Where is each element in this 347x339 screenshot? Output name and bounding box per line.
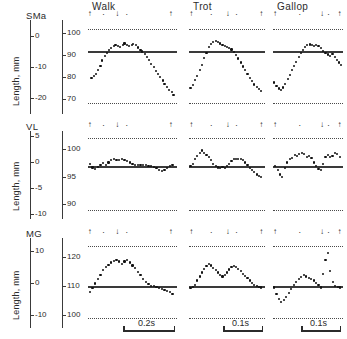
data-point (275, 293, 277, 295)
data-point (273, 286, 275, 288)
data-point (298, 278, 300, 280)
data-point (280, 301, 282, 303)
data-point (310, 278, 312, 280)
data-point (290, 288, 292, 290)
data-point (324, 259, 326, 261)
data-point (327, 252, 329, 254)
data-point (322, 273, 324, 275)
data-point (295, 281, 297, 283)
data-point (300, 276, 302, 278)
data-point (320, 286, 322, 288)
data-point (278, 298, 280, 300)
series-mg-gallop (0, 0, 347, 339)
muscle-length-gait-figure: Length, mmLength, mmLength, mmWalk0.2sTr… (0, 0, 347, 339)
data-point (332, 281, 334, 283)
data-point (339, 286, 341, 288)
data-point (288, 292, 290, 294)
data-point (285, 296, 287, 298)
data-point (305, 275, 307, 277)
data-point (283, 299, 285, 301)
data-point (329, 270, 331, 272)
data-point (293, 284, 295, 286)
